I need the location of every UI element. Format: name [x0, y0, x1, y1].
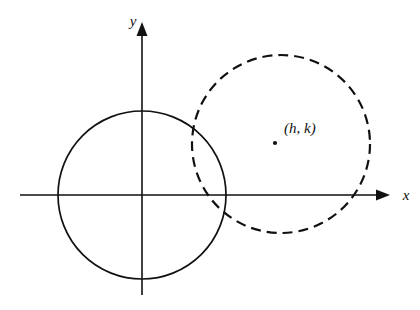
- figure-background: [0, 0, 420, 310]
- center-point-dot-icon: [273, 141, 277, 145]
- circle-translation-diagram: x y (h, k): [0, 0, 420, 310]
- x-axis-label: x: [402, 187, 410, 203]
- figure-canvas: x y (h, k): [0, 0, 420, 310]
- center-point-label: (h, k): [284, 120, 316, 137]
- y-axis-label: y: [128, 13, 137, 29]
